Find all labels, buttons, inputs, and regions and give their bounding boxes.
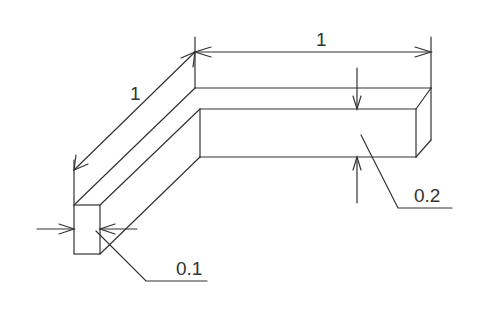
diagonal-arm-inner-top-edge <box>100 109 200 205</box>
straight-arm-end-bottom-edge <box>416 140 431 157</box>
dimension-line <box>74 52 195 170</box>
dimension-label: 1 <box>130 83 141 104</box>
dimension-label: 0.2 <box>414 185 440 206</box>
technical-drawing: 1 1 0.2 0.1 <box>0 0 485 310</box>
dimension-label: 0.1 <box>176 258 202 279</box>
dimension-diagonal-length: 1 <box>74 52 195 205</box>
end-face <box>74 205 100 254</box>
diagonal-arm-bottom-edge <box>100 157 200 254</box>
dimension-label: 1 <box>316 29 327 50</box>
dimension-top-length: 1 <box>195 29 431 88</box>
dimension-height: 0.2 <box>353 68 452 208</box>
straight-arm-end-top-edge <box>416 88 431 109</box>
diagonal-arm-outer-top-edge <box>74 88 195 205</box>
